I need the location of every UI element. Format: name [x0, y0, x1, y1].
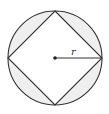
center-dot	[53, 56, 57, 60]
circle-inscribed-square-diagram: r	[0, 0, 109, 114]
